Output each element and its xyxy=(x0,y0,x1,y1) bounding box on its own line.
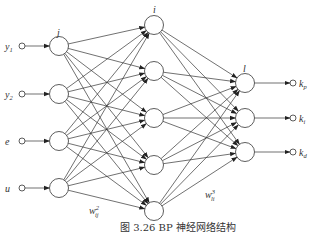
input-layer-label: j xyxy=(55,27,60,38)
weight-edge-ij xyxy=(65,78,148,180)
input-terminal xyxy=(19,138,25,144)
output-neuron xyxy=(236,143,255,162)
input-label: y1 xyxy=(4,41,13,53)
hidden-neuron xyxy=(145,109,164,128)
input-neuron xyxy=(50,85,69,104)
weight-edge-li xyxy=(160,33,240,145)
output-label: kd xyxy=(299,147,307,159)
weight-edge-li xyxy=(162,75,236,113)
hidden-neuron xyxy=(145,156,164,175)
weight-edge-ij xyxy=(64,33,149,180)
input-neuron xyxy=(50,179,69,198)
weight-edge-ij xyxy=(67,124,147,183)
weight-edge-ij xyxy=(67,31,147,89)
input-neuron xyxy=(50,37,69,56)
weight-label-w3: w3li xyxy=(205,188,216,202)
output-layer-label: l xyxy=(243,63,246,74)
weight-edge-ij xyxy=(68,167,145,186)
weight-edge-ij xyxy=(65,32,148,133)
hidden-neuron xyxy=(145,16,164,35)
output-terminal xyxy=(290,149,296,155)
input-terminal xyxy=(19,91,25,97)
output-neuron xyxy=(236,74,255,93)
input-label: y2 xyxy=(4,89,13,101)
nodes xyxy=(19,16,296,221)
hidden-layer-label: i xyxy=(153,4,156,15)
input-label: u xyxy=(5,183,10,194)
input-neuron xyxy=(50,132,69,151)
weight-edge-ij xyxy=(68,27,144,44)
output-neuron xyxy=(236,109,255,128)
weight-edge-ij xyxy=(67,52,147,113)
weight-edge-ij xyxy=(65,101,148,203)
output-terminal xyxy=(290,115,296,121)
weight-edge-li xyxy=(163,72,235,82)
weight-edge-ij xyxy=(64,54,150,203)
weight-label-w2: w2ij xyxy=(89,204,100,218)
hidden-neuron xyxy=(145,62,164,81)
weight-edge-ij xyxy=(67,147,147,206)
output-label: ki xyxy=(299,113,305,125)
hidden-neuron xyxy=(145,202,164,221)
weight-edge-li xyxy=(160,91,240,204)
weight-edge-li xyxy=(161,89,238,158)
output-label: kp xyxy=(299,78,307,90)
weight-edge-ij xyxy=(65,53,148,157)
output-terminal xyxy=(290,80,296,86)
input-terminal xyxy=(19,43,25,49)
weight-edge-li xyxy=(161,77,238,145)
weight-edge-li xyxy=(163,121,236,148)
input-terminal xyxy=(19,185,25,191)
weight-edge-li xyxy=(162,30,237,78)
input-label: e xyxy=(5,136,10,147)
bp-network-diagram: j i l w2ij w3li 图 3.26 BP 神经网络结构 y1y2euk… xyxy=(0,0,310,233)
figure-caption: 图 3.26 BP 神经网络结构 xyxy=(120,221,236,233)
weight-edge-li xyxy=(161,125,239,204)
weight-edge-ij xyxy=(68,190,145,209)
weight-edge-ij xyxy=(68,48,145,68)
